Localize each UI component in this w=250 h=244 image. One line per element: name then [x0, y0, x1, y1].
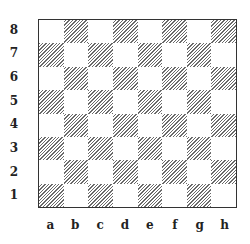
file-label-b: b — [63, 218, 87, 232]
square-b5[interactable] — [64, 90, 89, 113]
square-h8[interactable] — [211, 20, 236, 43]
square-d4[interactable] — [113, 114, 138, 137]
square-h7[interactable] — [211, 43, 236, 66]
square-e3[interactable] — [138, 137, 163, 160]
square-f1[interactable] — [162, 184, 187, 207]
square-d1[interactable] — [113, 184, 138, 207]
rank-label-6: 6 — [6, 70, 22, 84]
square-d7[interactable] — [113, 43, 138, 66]
square-a2[interactable] — [39, 160, 64, 183]
square-a5[interactable] — [39, 90, 64, 113]
square-c2[interactable] — [88, 160, 113, 183]
square-c7[interactable] — [88, 43, 113, 66]
rank-label-4: 4 — [6, 117, 22, 131]
square-b7[interactable] — [64, 43, 89, 66]
square-a1[interactable] — [39, 184, 64, 207]
square-e4[interactable] — [138, 114, 163, 137]
square-c5[interactable] — [88, 90, 113, 113]
square-e7[interactable] — [138, 43, 163, 66]
square-e5[interactable] — [138, 90, 163, 113]
square-h3[interactable] — [211, 137, 236, 160]
square-h6[interactable] — [211, 67, 236, 90]
square-c1[interactable] — [88, 184, 113, 207]
square-b4[interactable] — [64, 114, 89, 137]
square-f3[interactable] — [162, 137, 187, 160]
square-b2[interactable] — [64, 160, 89, 183]
square-g4[interactable] — [187, 114, 212, 137]
square-g1[interactable] — [187, 184, 212, 207]
rank-label-8: 8 — [6, 23, 22, 37]
chessboard — [38, 19, 237, 208]
square-f4[interactable] — [162, 114, 187, 137]
square-a7[interactable] — [39, 43, 64, 66]
square-b6[interactable] — [64, 67, 89, 90]
rank-label-7: 7 — [6, 46, 22, 60]
file-label-h: h — [213, 218, 237, 232]
file-label-f: f — [163, 218, 187, 232]
square-e6[interactable] — [138, 67, 163, 90]
square-a4[interactable] — [39, 114, 64, 137]
square-e1[interactable] — [138, 184, 163, 207]
square-h1[interactable] — [211, 184, 236, 207]
square-d2[interactable] — [113, 160, 138, 183]
square-h5[interactable] — [211, 90, 236, 113]
rank-label-5: 5 — [6, 94, 22, 108]
square-h4[interactable] — [211, 114, 236, 137]
square-f6[interactable] — [162, 67, 187, 90]
square-f5[interactable] — [162, 90, 187, 113]
rank-label-3: 3 — [6, 141, 22, 155]
square-f8[interactable] — [162, 20, 187, 43]
square-b1[interactable] — [64, 184, 89, 207]
square-d5[interactable] — [113, 90, 138, 113]
square-h2[interactable] — [211, 160, 236, 183]
square-a6[interactable] — [39, 67, 64, 90]
file-label-g: g — [188, 218, 212, 232]
file-label-d: d — [113, 218, 137, 232]
square-f2[interactable] — [162, 160, 187, 183]
file-label-e: e — [138, 218, 162, 232]
square-c3[interactable] — [88, 137, 113, 160]
square-g5[interactable] — [187, 90, 212, 113]
square-d8[interactable] — [113, 20, 138, 43]
square-g7[interactable] — [187, 43, 212, 66]
square-g2[interactable] — [187, 160, 212, 183]
square-a3[interactable] — [39, 137, 64, 160]
square-e8[interactable] — [138, 20, 163, 43]
square-g8[interactable] — [187, 20, 212, 43]
square-f7[interactable] — [162, 43, 187, 66]
square-a8[interactable] — [39, 20, 64, 43]
square-c4[interactable] — [88, 114, 113, 137]
square-d6[interactable] — [113, 67, 138, 90]
file-label-c: c — [88, 218, 112, 232]
rank-label-1: 1 — [6, 188, 22, 202]
square-g3[interactable] — [187, 137, 212, 160]
square-b8[interactable] — [64, 20, 89, 43]
square-e2[interactable] — [138, 160, 163, 183]
rank-label-2: 2 — [6, 165, 22, 179]
square-c8[interactable] — [88, 20, 113, 43]
square-c6[interactable] — [88, 67, 113, 90]
square-d3[interactable] — [113, 137, 138, 160]
square-b3[interactable] — [64, 137, 89, 160]
file-label-a: a — [38, 218, 62, 232]
square-g6[interactable] — [187, 67, 212, 90]
